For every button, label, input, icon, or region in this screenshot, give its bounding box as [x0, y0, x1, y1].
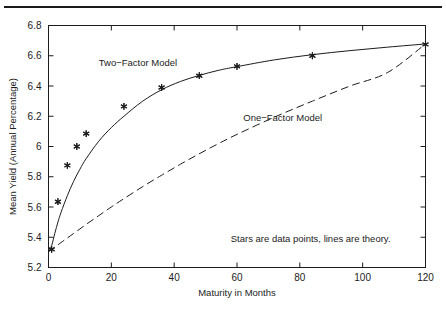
- y-tick-label: 6.8: [28, 20, 42, 31]
- x-tick-label: 20: [106, 272, 118, 283]
- x-axis-title: Maturity in Months: [198, 287, 276, 298]
- y-tick-label: 6.6: [28, 50, 42, 61]
- data-point-star: [55, 198, 61, 205]
- x-tick-label: 100: [354, 272, 371, 283]
- y-tick-label: 5.8: [28, 171, 42, 182]
- y-tick-label: 6: [36, 141, 42, 152]
- x-tick-label: 60: [231, 272, 243, 283]
- data-point-star: [309, 52, 315, 59]
- data-point-star: [83, 130, 89, 137]
- y-tick-label: 5.2: [28, 262, 42, 273]
- data-point-star: [121, 103, 127, 110]
- data-point-star: [74, 143, 80, 150]
- annotation-1: One−Factor Model: [243, 112, 322, 123]
- chart-annotations: Two−Factor ModelOne−Factor ModelStars ar…: [99, 57, 391, 243]
- x-tick-label: 120: [417, 272, 434, 283]
- x-tick-label: 0: [46, 272, 52, 283]
- data-point-star: [64, 162, 70, 169]
- y-tick-label: 6.4: [28, 81, 42, 92]
- data-point-star: [159, 84, 165, 91]
- yield-curve-chart: 020406080100120 5.25.45.65.866.26.46.66.…: [0, 0, 446, 316]
- y-axis-title: Mean Yield (Annual Percentage): [7, 78, 18, 215]
- series-line-1: [49, 44, 426, 252]
- data-point-markers: [49, 41, 429, 253]
- y-tick-label: 5.4: [28, 232, 42, 243]
- annotation-0: Two−Factor Model: [99, 57, 177, 68]
- y-axis-tick-labels: 5.25.45.65.866.26.46.66.8: [28, 20, 42, 273]
- x-axis-tick-labels: 020406080100120: [46, 272, 435, 283]
- figure-container: 020406080100120 5.25.45.65.866.26.46.66.…: [0, 0, 446, 316]
- x-tick-label: 40: [169, 272, 181, 283]
- y-tick-label: 5.6: [28, 202, 42, 213]
- x-tick-label: 80: [294, 272, 306, 283]
- series-lines: [49, 44, 426, 252]
- annotation-2: Stars are data points, lines are theory.: [231, 233, 391, 244]
- y-tick-label: 6.2: [28, 111, 42, 122]
- series-line-0: [49, 44, 426, 252]
